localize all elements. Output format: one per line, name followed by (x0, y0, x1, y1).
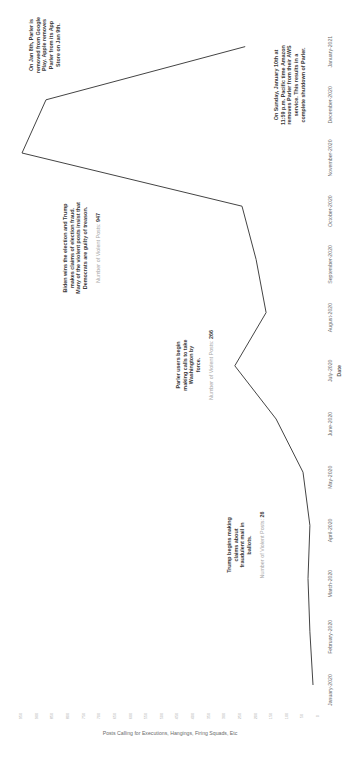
annotation-google-apple: On Jan 8th, Parler isremoved from Google… (28, 17, 60, 73)
date-tick-label: June-2020 (327, 412, 333, 437)
annotation-count-value: 947 (95, 213, 101, 222)
annotation-text: Trump begins making (226, 517, 232, 573)
annotation-text: removed from Google (35, 17, 41, 73)
value-tick-label: 200 (253, 712, 258, 719)
value-tick-label: 950 (18, 712, 23, 719)
date-tick-label: November-2020 (327, 139, 333, 176)
annotation-count-value: 26 (259, 511, 265, 517)
annotation-text: removes Parler from their AWS (286, 45, 292, 125)
annotation-count: Number of Violent Posts: 26 (259, 511, 265, 578)
date-tick-label: December-2020 (327, 86, 333, 123)
annotation-text: Parler from its App (48, 20, 54, 69)
annotation-text: complete shutdown of Parler. (300, 47, 306, 123)
annotation-text: Washington by (188, 346, 194, 384)
annotation-text: making calls to take (182, 339, 188, 390)
annotation-aws-shutdown: On Sunday, January 10th at11:59 p.m. Pac… (273, 45, 305, 125)
date-tick-label: May-2020 (327, 466, 333, 489)
annotation-text: ballots. (246, 535, 252, 554)
annotation-text: Biden wins the election and Trump (62, 203, 68, 293)
value-tick-label: 650 (112, 712, 117, 719)
value-tick-label: 800 (65, 712, 70, 719)
annotation-biden-wins: Biden wins the election and Trumpmakes c… (62, 202, 101, 294)
date-tick-label: September-2020 (327, 245, 333, 284)
date-tick-label: March-2020 (327, 570, 333, 598)
value-tick-label: 150 (268, 712, 273, 719)
value-tick-label: 250 (237, 712, 242, 719)
value-tick-label: 100 (284, 712, 289, 719)
annotation-text: Parler users begin (175, 341, 181, 388)
violent-posts-line (22, 47, 313, 685)
value-tick-label: 350 (206, 712, 211, 719)
date-tick-label: October-2020 (327, 195, 333, 227)
annotation-text: fraudulent mail in (239, 523, 245, 568)
value-tick-label: 750 (81, 712, 86, 719)
annotation-text: Play. Apple removes (41, 19, 47, 71)
annotation-text: claims about (233, 528, 239, 561)
value-axis-ticks: 0501001502002503003504004505005506006507… (18, 712, 320, 719)
annotation-text: Democrats are guilty of treason. (82, 206, 88, 289)
value-tick-label: 850 (49, 712, 54, 719)
annotation-trump-mail: Trump begins makingclaims aboutfraudulen… (226, 511, 265, 578)
annotation-count-value: 266 (208, 330, 214, 339)
annotation-washington-force: Parler users beginmaking calls to takeWa… (175, 330, 214, 400)
annotation-text: force. (195, 357, 201, 372)
value-tick-label: 300 (221, 712, 226, 719)
value-tick-label: 550 (143, 712, 148, 719)
date-axis-title: Date (336, 365, 342, 376)
date-axis-labels: January-2020February-2020March-2020April… (327, 36, 333, 706)
annotations: Trump begins makingclaims aboutfraudulen… (28, 17, 305, 579)
annotation-text: service. This results in a (293, 53, 299, 117)
annotation-text: Many of the violent posts insist that (75, 202, 81, 294)
line-chart: 0501001502002503003504004505005506006507… (0, 0, 354, 759)
value-tick-label: 450 (174, 712, 179, 719)
date-tick-label: February-2020 (327, 620, 333, 654)
annotation-text: makes claims of election fraud. (69, 208, 75, 288)
date-tick-label: January-2021 (327, 36, 333, 68)
value-tick-label: 900 (34, 712, 39, 719)
annotation-count: Number of Violent Posts: 266 (208, 330, 214, 400)
annotation-count: Number of Violent Posts: 947 (95, 213, 101, 283)
annotation-text: On Sunday, January 10th at (273, 50, 279, 121)
value-tick-label: 400 (190, 712, 195, 719)
value-tick-label: 500 (159, 712, 164, 719)
value-tick-label: 0 (315, 714, 320, 717)
annotation-text: On Jan 8th, Parler is (28, 19, 34, 71)
date-tick-label: January-2020 (327, 674, 333, 706)
date-tick-label: August-2020 (327, 303, 333, 333)
value-tick-label: 50 (299, 713, 304, 718)
value-tick-label: 700 (96, 712, 101, 719)
annotation-text: 11:59 p.m. Pacific time Amazon (280, 45, 286, 125)
date-tick-label: July-2020 (327, 359, 333, 382)
value-tick-label: 600 (128, 712, 133, 719)
annotation-text: Store on Jan 9th. (55, 23, 61, 67)
date-tick-label: April-2020 (327, 518, 333, 542)
value-axis-title: Posts Calling for Executions, Hangings, … (103, 730, 238, 736)
